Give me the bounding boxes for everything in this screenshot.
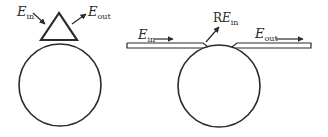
right-panel: Ein REin Eout [127, 11, 311, 127]
prism-triangle [41, 13, 77, 40]
diagram-canvas: Ein Eout Ein REin Eout [0, 0, 328, 137]
ring-resonator-right [178, 45, 260, 127]
input-arrow-left [33, 13, 45, 24]
reflected-arrow [206, 27, 219, 42]
output-arrow-left [72, 14, 86, 24]
label-e-out-left: Eout [87, 4, 111, 21]
left-panel: Ein Eout [16, 4, 111, 126]
label-e-out-right: Eout [254, 26, 278, 43]
label-e-in-right: Ein [137, 27, 155, 44]
ring-resonator-left [19, 44, 101, 126]
label-e-in-left: Ein [16, 4, 34, 21]
label-r-e-in: REin [213, 11, 239, 27]
output-waveguide [232, 43, 311, 48]
input-waveguide [127, 43, 208, 48]
